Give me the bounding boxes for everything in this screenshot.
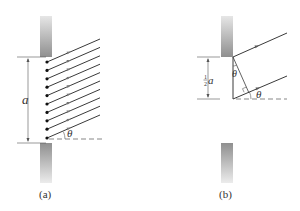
- slit-wall-bottom: [221, 143, 233, 183]
- slit-wall-top: [40, 16, 52, 57]
- dimension-arrow-down-icon: [27, 138, 30, 142]
- ray-arrows: [67, 52, 72, 131]
- angle-arc-top: [233, 65, 237, 66]
- caption-b: (b): [219, 188, 232, 201]
- svg-text:a: a: [208, 74, 214, 86]
- dimension-label-half-a: 1 2 a: [204, 74, 215, 87]
- dimension-arrow-up-icon: [27, 58, 30, 62]
- diffraction-diagram: a: [0, 0, 300, 211]
- panel-b: 1 2 a θ θ (b): [197, 16, 287, 201]
- dimension-arrow-up-icon: [207, 58, 210, 62]
- angle-arc-bottom: [250, 92, 252, 99]
- angle-label-theta-bottom: θ: [256, 88, 262, 100]
- caption-a: (a): [39, 188, 52, 201]
- dimension-arrow-down-icon: [207, 94, 210, 98]
- angle-arc: [64, 132, 66, 139]
- rays: [47, 39, 100, 138]
- dimension-label-a: a: [22, 92, 29, 107]
- slit-wall-top: [221, 16, 233, 57]
- ray-top: [233, 33, 287, 57]
- point-sources: [45, 60, 48, 139]
- slit-wall-bottom: [40, 143, 52, 183]
- ray-arrow-top-icon: [255, 46, 260, 49]
- angle-label-theta-top: θ: [232, 68, 237, 79]
- angle-label-theta: θ: [67, 127, 73, 139]
- right-angle-marker: [243, 87, 247, 92]
- panel-a: a: [17, 16, 102, 201]
- svg-text:1: 1: [204, 74, 207, 80]
- svg-text:2: 2: [204, 81, 207, 87]
